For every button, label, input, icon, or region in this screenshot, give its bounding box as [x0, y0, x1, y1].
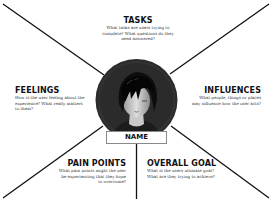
divider-top-left — [3, 4, 104, 75]
influences-title: INFLUENCES — [190, 86, 261, 95]
pain-points-title: PAIN POINTS — [56, 159, 126, 168]
persona-name-label: NAME — [106, 131, 167, 144]
tasks-section: TASKS What tasks are users trying to com… — [100, 16, 176, 42]
divider-top-right — [170, 4, 269, 74]
feelings-section: FEELINGS How is the user feeling about t… — [15, 86, 85, 112]
overall-goal-section: OVERALL GOAL What is the users ultimate … — [147, 159, 219, 179]
influences-description: What people, things or places may influe… — [190, 95, 261, 106]
tasks-description: What tasks are users trying to complete?… — [100, 25, 176, 42]
pain-points-description: What pain points might the user be exper… — [56, 168, 126, 185]
feelings-description: How is the user feeling about the experi… — [15, 95, 85, 112]
pain-points-section: PAIN POINTS What pain points might the u… — [56, 159, 126, 185]
influences-section: INFLUENCES What people, things or places… — [190, 86, 261, 106]
persona-avatar-icon — [96, 59, 178, 141]
tasks-title: TASKS — [100, 16, 176, 25]
feelings-title: FEELINGS — [15, 86, 85, 95]
overall-goal-description: What is the users ultimate goal? What ar… — [147, 168, 219, 179]
overall-goal-title: OVERALL GOAL — [147, 159, 219, 168]
empathy-map: TASKS What tasks are users trying to com… — [0, 0, 272, 203]
